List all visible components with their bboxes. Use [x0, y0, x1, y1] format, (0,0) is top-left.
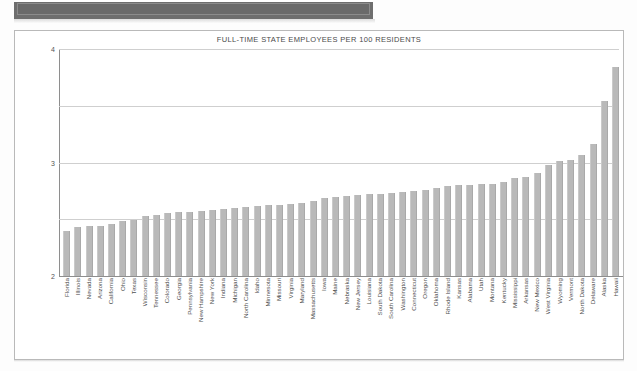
bar[interactable] [74, 227, 81, 276]
x-label-slot: Delaware [588, 278, 599, 356]
bar[interactable] [455, 185, 462, 276]
bar[interactable] [63, 231, 70, 276]
x-label-slot: New Hampshire [195, 278, 206, 356]
bar[interactable] [164, 213, 171, 276]
x-label-slot: Arizona [95, 278, 106, 356]
bar[interactable] [86, 226, 93, 276]
bar[interactable] [298, 203, 305, 276]
bar[interactable] [175, 212, 182, 276]
bar[interactable] [511, 178, 518, 276]
x-label-slot: Illinois [72, 278, 83, 356]
scanned-page: FULL-TIME STATE EMPLOYEES PER 100 RESIDE… [0, 0, 637, 371]
bar-slot [476, 49, 487, 276]
x-label-slot: West Virginia [543, 278, 554, 356]
bar[interactable] [545, 165, 552, 276]
x-label-slot: Texas [128, 278, 139, 356]
bar[interactable] [534, 173, 541, 276]
x-axis-tick-label: California [108, 278, 114, 304]
bar-slot [610, 49, 621, 276]
x-axis-tick-label: Utah [478, 278, 484, 291]
bar[interactable] [97, 226, 104, 277]
bar[interactable] [466, 185, 473, 276]
bar-slot [509, 49, 520, 276]
x-label-slot: Florida [61, 278, 72, 356]
x-label-slot: Ohio [117, 278, 128, 356]
bar-slot [229, 49, 240, 276]
chart-container: FULL-TIME STATE EMPLOYEES PER 100 RESIDE… [14, 30, 624, 360]
x-axis-tick-label: Texas [131, 278, 137, 294]
bar[interactable] [287, 204, 294, 276]
bar[interactable] [276, 205, 283, 277]
x-axis-tick-label: South Dakota [377, 278, 383, 316]
bar[interactable] [399, 192, 406, 276]
bar[interactable] [265, 205, 272, 276]
x-label-slot: Louisiana [363, 278, 374, 356]
bar[interactable] [601, 101, 608, 276]
bar[interactable] [366, 194, 373, 276]
x-axis-tick-label: Ohio [120, 278, 126, 291]
x-label-slot: Georgia [173, 278, 184, 356]
x-label-slot: New Mexico [532, 278, 543, 356]
x-axis-tick-label: Florida [64, 278, 70, 297]
bar[interactable] [388, 193, 395, 276]
bar[interactable] [489, 184, 496, 277]
bar[interactable] [186, 212, 193, 276]
bar[interactable] [220, 209, 227, 276]
bar[interactable] [153, 215, 160, 276]
bar-slot [397, 49, 408, 276]
bar[interactable] [433, 188, 440, 276]
bar[interactable] [209, 210, 216, 276]
bar-slot [307, 49, 318, 276]
bar-slot [464, 49, 475, 276]
x-axis-tick-label: South Carolina [388, 278, 394, 319]
bar[interactable] [500, 182, 507, 276]
bar-slot [285, 49, 296, 276]
bar[interactable] [242, 207, 249, 276]
bar[interactable] [142, 216, 149, 276]
x-axis-tick-label: Wyoming [557, 278, 563, 304]
bar[interactable] [522, 177, 529, 276]
bar[interactable] [354, 195, 361, 276]
x-axis-tick-label: Georgia [176, 278, 182, 300]
bar[interactable] [310, 201, 317, 276]
bar[interactable] [254, 206, 261, 276]
x-label-slot: Maine [330, 278, 341, 356]
x-label-slot: Indiana [218, 278, 229, 356]
x-axis-tick-label: North Dakota [579, 278, 585, 314]
bar-slot [195, 49, 206, 276]
x-label-slot: Minnesota [263, 278, 274, 356]
bar[interactable] [231, 208, 238, 276]
page-header-band [14, 0, 373, 21]
x-axis-tick-label: Massachusetts [310, 278, 316, 319]
bar[interactable] [556, 161, 563, 276]
bar-slot [532, 49, 543, 276]
bar[interactable] [478, 184, 485, 276]
x-label-slot: Rhode Island [442, 278, 453, 356]
bar[interactable] [343, 196, 350, 276]
x-axis-tick-label: New Hampshire [198, 278, 204, 322]
bar[interactable] [130, 220, 137, 276]
bar[interactable] [198, 211, 205, 276]
bar[interactable] [321, 198, 328, 276]
bar-slot [218, 49, 229, 276]
x-label-slot: South Dakota [375, 278, 386, 356]
x-label-slot: Virginia [285, 278, 296, 356]
x-label-slot: New York [207, 278, 218, 356]
x-axis-tick-label: Mississippi [512, 278, 518, 308]
chart-title: FULL-TIME STATE EMPLOYEES PER 100 RESIDE… [15, 35, 623, 44]
y-axis-tick-label: 2 [51, 273, 55, 280]
bar[interactable] [108, 224, 115, 276]
bar[interactable] [422, 190, 429, 276]
bar[interactable] [377, 194, 384, 276]
bar[interactable] [410, 191, 417, 276]
bar[interactable] [590, 144, 597, 276]
x-axis-tick-label: Oregon [422, 278, 428, 299]
bar[interactable] [119, 221, 126, 276]
bar[interactable] [444, 186, 451, 276]
bar-slot [565, 49, 576, 276]
bar[interactable] [578, 155, 585, 276]
bar[interactable] [567, 160, 574, 276]
x-label-slot: Pennsylvania [184, 278, 195, 356]
bar[interactable] [612, 67, 619, 276]
bar[interactable] [332, 197, 339, 276]
